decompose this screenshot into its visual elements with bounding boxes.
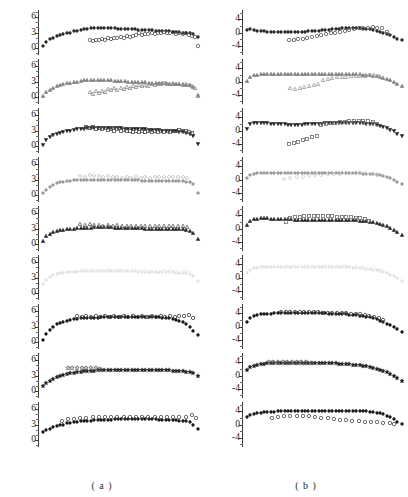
data-point [369,420,374,425]
data-point [194,416,199,421]
y-axis-tick-label: 4 [235,211,240,221]
data-point [322,264,327,269]
data-point [302,214,306,218]
data-point [363,171,367,175]
data-point [313,173,317,177]
data-point [118,268,123,273]
data-point [305,137,309,141]
data-point [328,264,333,269]
chart-row: -404 [204,57,408,106]
y-axis-tick-label: -4 [232,335,240,345]
data-point [359,265,364,270]
y-axis: 036 [38,106,204,155]
y-axis-tick-label: 4 [235,407,240,417]
data-point [137,269,142,274]
plot-area [243,204,408,253]
data-point [381,76,386,81]
data-point [395,132,400,137]
data-point [400,279,404,283]
y-axis-tick-label: 0 [31,43,36,53]
data-point [350,171,354,175]
data-point [282,414,287,419]
data-point [291,141,295,145]
plot-area [243,253,408,302]
data-point [44,332,48,336]
data-point [288,176,292,180]
data-point [330,214,334,218]
y-axis-tick-label: 3 [31,371,36,381]
data-point [41,338,45,342]
data-point [344,418,349,423]
y-axis-tick-label: -4 [232,41,240,51]
chart-row: 036 [0,302,204,351]
data-point [326,214,330,218]
data-point [325,172,329,176]
data-point [124,269,129,274]
y-axis-tick-label: 0 [31,288,36,298]
data-point [195,373,200,378]
data-point [335,214,339,218]
y-axis-tick-label: 0 [235,28,240,38]
data-point [112,269,117,274]
data-point [41,282,45,286]
data-point [367,219,371,223]
data-point [316,264,321,269]
y-axis-tick-label: 0 [235,175,240,185]
y-axis: -404 [242,302,408,351]
y-axis-tick-label: 3 [31,224,36,234]
y-axis-tick-label: 4 [235,113,240,123]
data-point [196,44,201,49]
data-point [399,378,404,383]
data-point [350,419,355,424]
data-point [245,320,249,324]
data-point [191,316,196,321]
y-axis: -404 [242,253,408,302]
y-axis: -404 [242,400,408,449]
data-point [149,269,154,274]
y-axis-tick-label: 4 [235,260,240,270]
plot-area [243,155,408,204]
plot-area [243,57,408,106]
data-point [301,138,305,142]
data-point [333,120,337,124]
data-point [381,173,385,177]
y-axis-tick-label: 3 [31,420,36,430]
y-axis-tick-label: 3 [31,126,36,136]
panel-a: 036036036036036036036036036 ( a ) [0,0,204,497]
y-axis-tick-label: 0 [31,337,36,347]
data-point [93,268,98,273]
data-point [291,264,296,269]
data-point [325,416,330,421]
panel-b: -404-404-404-404-404-404-404-404-404 ( b… [204,0,408,497]
data-point [400,134,405,139]
data-point [384,29,389,34]
y-axis: -404 [242,57,408,106]
plot-area [243,302,408,351]
y-axis-tick-label: 6 [31,306,36,316]
data-point [329,121,333,125]
data-point [245,126,250,131]
data-point [344,171,348,175]
data-point [308,360,313,365]
data-point [349,215,353,219]
y-axis: -404 [242,351,408,400]
data-point [321,214,325,218]
data-point [353,264,358,269]
data-point [332,172,336,176]
data-point [324,122,328,126]
chart-row: 036 [0,106,204,155]
data-point [174,269,179,274]
data-point [193,35,198,40]
data-point [245,223,250,228]
plot-area [39,204,204,253]
data-point [143,268,148,273]
data-point [395,230,400,235]
data-point [134,415,139,420]
y-axis-tick-label: 6 [31,110,36,120]
data-point [319,173,323,177]
data-point [140,415,145,420]
data-point [395,180,399,184]
data-point [191,182,195,186]
panel-b-caption: ( b ) [204,480,408,491]
data-point [162,269,167,274]
